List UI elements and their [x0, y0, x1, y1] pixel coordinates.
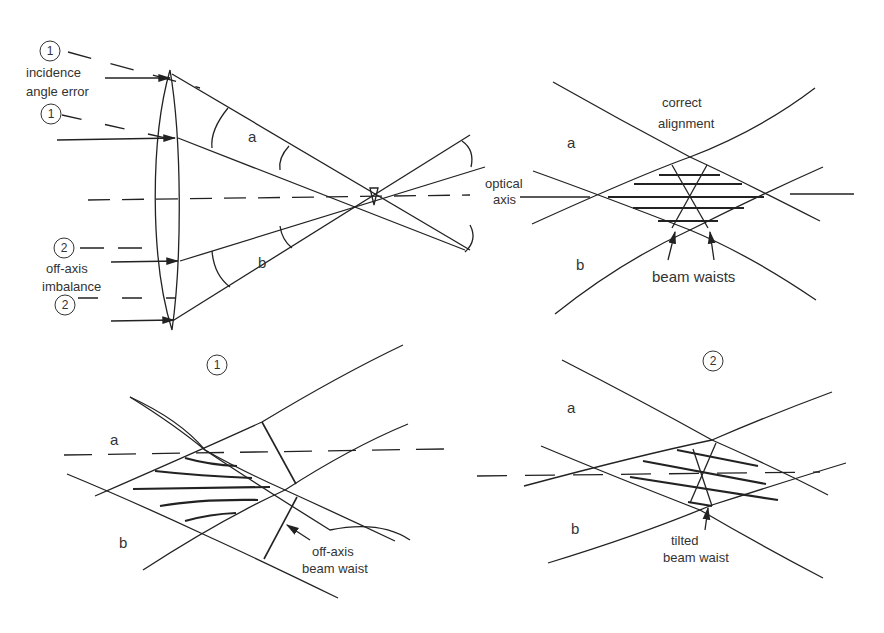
offaxis-label-line2: imbalance [42, 279, 101, 294]
incidence-label-line1: incidence [26, 65, 81, 80]
marker-1a: 1 [47, 44, 54, 58]
tilted-waist-panel: 2 a b tilted beam waist [477, 351, 846, 578]
beam-waists-label: beam waists [652, 268, 735, 285]
beam-b-lower [548, 463, 846, 563]
lens [155, 70, 179, 330]
off-axis-waist-panel: 1 a b off-axis beam waist [64, 345, 445, 598]
panel-1-marker: 1 [214, 358, 221, 372]
marker-1b: 1 [48, 107, 55, 121]
waist-pointer-1 [668, 232, 675, 260]
optical-axis [64, 449, 445, 455]
lens-panel: a b 1 incidence angle error 1 2 off-axis… [26, 41, 523, 330]
overlap-hatch [608, 175, 764, 221]
angle-arc-a2 [280, 146, 289, 170]
panel-2-marker: 2 [710, 354, 717, 368]
waist-pointer [287, 525, 310, 540]
optical-axis-label-line2: axis [493, 192, 517, 207]
error-ray-1 [68, 52, 200, 88]
beam-a-label: a [567, 399, 576, 416]
beam-a-upper [172, 74, 470, 250]
beam-b-label: b [119, 534, 127, 551]
optical-axis [477, 472, 820, 476]
optical-axis [88, 195, 470, 200]
beam-b-label: b [571, 520, 579, 537]
angle-arc-right1 [462, 141, 472, 167]
waist-pointer-2 [710, 232, 714, 260]
beam-b-label: b [258, 254, 266, 271]
beam-a-lower [178, 138, 465, 250]
optical-axis-label-line1: optical [485, 176, 523, 191]
beam-a-lower [67, 474, 338, 598]
incident-ray-4 [111, 320, 174, 321]
offaxis-label-line1: off-axis [46, 261, 88, 276]
correct-alignment-line1: correct [662, 95, 702, 110]
waist-pointer [705, 508, 708, 530]
tilted-waist-label-line1: tilted [671, 533, 698, 548]
off-axis-waist-label-line2: beam waist [302, 561, 368, 576]
beam-b-lower [555, 167, 823, 314]
marker-2b: 2 [62, 298, 69, 312]
beam-a-upper [130, 397, 410, 540]
off-axis-waist-label-line1: off-axis [312, 544, 354, 559]
overlap-hatch [630, 450, 778, 506]
error-ray-2 [62, 115, 175, 140]
beam-b-upper [180, 167, 485, 261]
incidence-label-line2: angle error [26, 84, 90, 99]
correct-alignment-panel: correct alignment a b beam waists [520, 82, 854, 314]
beam-a-label: a [248, 128, 257, 145]
beam-b-label: b [576, 256, 584, 273]
marker-2a: 2 [61, 241, 68, 255]
angle-arc-a1 [212, 108, 228, 148]
beam-waist-upper [262, 422, 296, 484]
beam-a-label: a [110, 431, 119, 448]
beam-a-label: a [567, 134, 576, 151]
tilted-waist-label-line2: beam waist [663, 550, 729, 565]
incident-ray-3 [111, 261, 178, 262]
angle-arc-b1 [212, 251, 230, 287]
beam-alignment-diagram: a b 1 incidence angle error 1 2 off-axis… [0, 0, 884, 633]
correct-alignment-line2: alignment [658, 116, 715, 131]
